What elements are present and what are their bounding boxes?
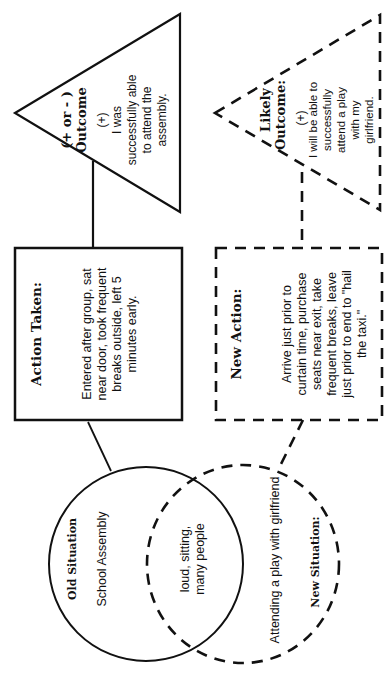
new-action-line: the taxi." — [355, 264, 370, 404]
old-outcome-line: assembly. — [155, 65, 170, 175]
new-outcome-title-line2: Outcome: — [274, 75, 288, 155]
new-outcome-line: I will be able to — [306, 70, 320, 170]
new-outcome-text: I will be able to successfully attend a … — [306, 70, 376, 170]
overlap-line: many people — [193, 514, 208, 604]
old-outcome-sign: (+) — [95, 80, 109, 160]
new-outcome-line: successfully — [320, 70, 334, 170]
old-outcome-title-line2: Outcome — [75, 80, 89, 160]
old-outcome-line: to attend the — [140, 65, 155, 175]
new-situation-text: Attending a play with girlfriend — [268, 475, 282, 645]
old-situation-title: Old Situation — [66, 514, 80, 604]
old-outcome-line: I was — [110, 65, 125, 175]
new-outcome-line: with my — [348, 70, 362, 170]
old-action-line: near door, took frequent — [95, 264, 110, 404]
old-action-line: minutes early. — [125, 264, 140, 404]
old-action-line: Entered after group, sat — [80, 264, 95, 404]
new-situation-title: New Situation: — [309, 512, 323, 612]
new-action-text: Arrive just prior to curtain time, purch… — [280, 264, 370, 404]
old-action-title: Action Taken: — [28, 274, 44, 394]
new-action-line: just prior to end to "hail — [340, 264, 355, 404]
new-outcome-line: girlfriend. — [362, 70, 376, 170]
old-outcome-text: I was successfully able to attend the as… — [110, 65, 170, 175]
new-action-line: frequent breaks, leave — [325, 264, 340, 404]
new-action-title: New Action: — [228, 274, 244, 394]
old-outcome-title-line1: (+ or - ) — [60, 80, 74, 160]
old-action-connector — [88, 422, 111, 471]
new-outcome-line: attend a play — [334, 70, 348, 170]
new-action-line: seats near exit, take — [310, 264, 325, 404]
old-situation-text: School Assembly — [95, 504, 109, 614]
new-action-line: curtain time, purchase — [295, 264, 310, 404]
new-action-connector — [278, 420, 303, 470]
new-action-line: Arrive just prior to — [280, 264, 295, 404]
overlap-line: loud, sitting, — [178, 514, 193, 604]
old-action-text: Entered after group, sat near door, took… — [80, 264, 140, 404]
new-outcome-title-line1: Likely — [259, 70, 273, 150]
overlap-text: loud, sitting, many people — [178, 514, 208, 604]
old-action-line: breaks outside, left 5 — [110, 264, 125, 404]
old-outcome-line: successfully able — [125, 65, 140, 175]
